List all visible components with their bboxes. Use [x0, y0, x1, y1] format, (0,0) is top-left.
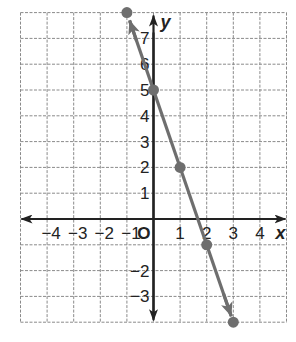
- data-point: [148, 85, 159, 96]
- x-tick-label: −2: [95, 224, 114, 243]
- coordinate-plane: −4−3−2−112347654321−2−3Oxy: [0, 0, 296, 342]
- origin-label: O: [137, 224, 150, 243]
- data-point: [121, 7, 132, 18]
- y-tick-label: 1: [140, 184, 149, 203]
- y-tick-label: 3: [140, 133, 149, 152]
- x-axis-label: x: [274, 223, 286, 243]
- x-tick-label: 4: [255, 224, 264, 243]
- y-tick-label: −3: [130, 287, 149, 306]
- x-tick-label: −4: [41, 224, 60, 243]
- y-tick-label: 4: [140, 107, 149, 126]
- axes: [22, 16, 286, 321]
- y-tick-label: 7: [140, 29, 149, 48]
- y-tick-label: 2: [140, 158, 149, 177]
- data-point: [228, 317, 239, 328]
- y-axis-label: y: [159, 12, 171, 32]
- y-tick-label: −2: [130, 262, 149, 281]
- x-tick-label: −3: [68, 224, 87, 243]
- data-point: [175, 162, 186, 173]
- data-point: [201, 239, 212, 250]
- x-tick-label: 1: [175, 224, 184, 243]
- tick-labels: −4−3−2−112347654321−2−3Oxy: [41, 12, 286, 307]
- x-tick-label: 3: [229, 224, 238, 243]
